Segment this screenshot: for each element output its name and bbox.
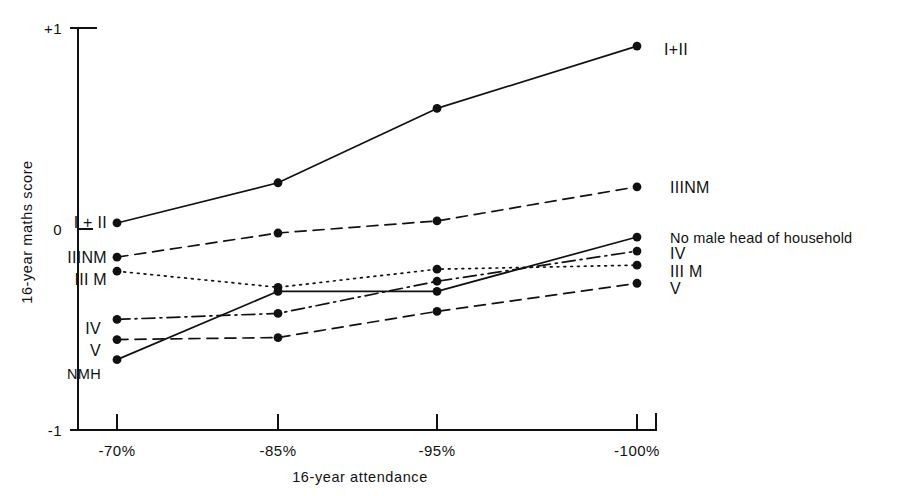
- series-line-0: [117, 46, 637, 223]
- data-point: [113, 219, 122, 228]
- data-point: [274, 178, 283, 187]
- left-label-series-0: I + II: [74, 214, 107, 231]
- x-tick-label-1: -85%: [259, 442, 296, 459]
- y-axis-title: 16-year maths score: [19, 160, 35, 304]
- data-point: [274, 309, 283, 318]
- right-label-series-1: IIINM: [670, 179, 710, 196]
- series-line-1: [117, 187, 637, 257]
- right-label-series-4: V: [670, 280, 681, 297]
- data-point: [433, 265, 442, 274]
- data-point: [433, 104, 442, 113]
- series-line-2: [117, 265, 637, 287]
- right-label-series-2: III M: [670, 263, 703, 280]
- data-point: [433, 277, 442, 286]
- data-point: [113, 253, 122, 262]
- series-layer: [113, 42, 642, 364]
- data-point: [633, 261, 642, 270]
- data-point: [433, 307, 442, 316]
- data-point: [433, 217, 442, 226]
- series-line-3: [117, 251, 637, 319]
- right-label-series-3: IV: [670, 245, 686, 262]
- data-point: [113, 315, 122, 324]
- axes-group: [70, 28, 656, 430]
- x-tick-label-2: -95%: [418, 442, 455, 459]
- x-tick-label-0: -70%: [98, 442, 135, 459]
- right-label-series-5: No male head of household: [670, 230, 852, 246]
- x-tick-label-3: -100%: [614, 442, 660, 459]
- y-tick-label-plus1: +1: [44, 20, 62, 37]
- right-label-series-0: I+II: [664, 41, 688, 58]
- data-point: [633, 182, 642, 191]
- data-point: [113, 267, 122, 276]
- data-point: [433, 287, 442, 296]
- left-label-series-5: NMH: [67, 366, 101, 382]
- data-point: [113, 335, 122, 344]
- x-axis-title: 16-year attendance: [292, 469, 428, 485]
- chart-figure: +1 0 -1 16-year maths score -70% -85% -9…: [0, 0, 898, 496]
- left-label-series-4: V: [90, 342, 101, 359]
- data-point: [274, 333, 283, 342]
- data-point: [633, 247, 642, 256]
- data-point: [633, 279, 642, 288]
- data-point: [274, 229, 283, 238]
- left-label-series-1: IIINM: [67, 249, 107, 266]
- y-tick-label-zero: 0: [53, 221, 62, 238]
- data-point: [633, 42, 642, 51]
- data-point: [274, 287, 283, 296]
- data-point: [633, 233, 642, 242]
- chart-canvas: +1 0 -1 16-year maths score -70% -85% -9…: [0, 0, 898, 496]
- left-label-series-3: IV: [85, 320, 101, 337]
- series-line-5: [117, 237, 637, 360]
- left-label-series-2: III M: [74, 271, 107, 288]
- y-tick-label-minus1: -1: [48, 422, 62, 439]
- data-point: [113, 355, 122, 364]
